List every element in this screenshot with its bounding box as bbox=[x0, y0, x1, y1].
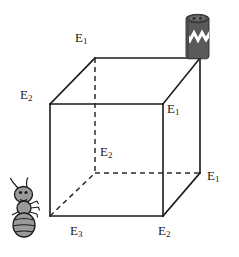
cube-edge-bottom-right-diag bbox=[163, 173, 200, 216]
container-hole-right bbox=[199, 17, 202, 20]
label-center-hidden: E2 bbox=[100, 145, 112, 158]
container-hole-left bbox=[193, 17, 196, 20]
ant-leg-1 bbox=[30, 201, 39, 204]
ant-eye-left bbox=[19, 191, 22, 194]
container-rim-inner bbox=[189, 16, 205, 21]
container-shadow bbox=[186, 19, 189, 58]
cube-edge-top-left-diag bbox=[50, 58, 95, 104]
label-bottom-right: E2 bbox=[158, 224, 170, 237]
ant-leg-4 bbox=[12, 212, 18, 215]
ant-leg-2 bbox=[31, 207, 40, 211]
ant-antenna-left bbox=[11, 178, 20, 189]
figure-root: E1 E2 E1 E2 E1 E3 E2 bbox=[0, 0, 239, 257]
cube-hidden-edge-diagonal bbox=[50, 173, 95, 216]
ant-antenna-right bbox=[26, 178, 28, 188]
cube-edge-top-right-diag bbox=[163, 58, 200, 104]
label-left-top: E2 bbox=[20, 88, 32, 101]
cube-solid-edges bbox=[50, 58, 200, 216]
container-jar bbox=[186, 14, 209, 59]
label-right-upper: E1 bbox=[167, 102, 179, 115]
ant-head bbox=[15, 187, 33, 203]
ant bbox=[11, 178, 40, 238]
cube-diagram-svg bbox=[0, 0, 239, 257]
label-top-back: E1 bbox=[75, 31, 87, 44]
label-right-lower: E1 bbox=[207, 169, 219, 182]
label-bottom-left: E3 bbox=[70, 224, 82, 237]
ant-eye-right bbox=[24, 191, 27, 194]
